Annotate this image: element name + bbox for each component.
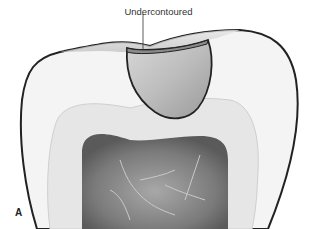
tooth-illustration xyxy=(0,0,313,229)
panel-label: A xyxy=(15,207,22,218)
tooth-diagram: Undercontoured A xyxy=(0,0,313,229)
pulp-chamber xyxy=(82,134,228,229)
callout-label: Undercontoured xyxy=(0,6,313,17)
